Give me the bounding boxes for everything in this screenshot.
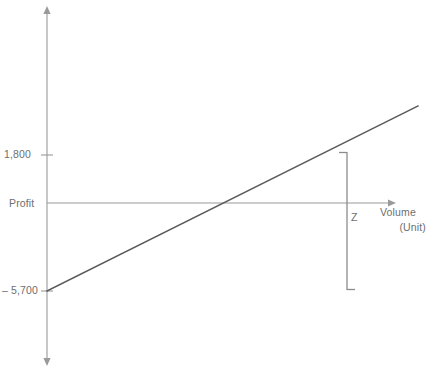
y-axis <box>43 6 50 366</box>
chart-canvas <box>0 0 428 376</box>
y-axis-label-profit: Profit <box>9 197 34 209</box>
profit-line-series <box>47 106 418 291</box>
y-axis-label-upper: 1,800 <box>4 148 31 160</box>
x-axis <box>47 200 396 207</box>
y-axis-arrow-down-icon <box>43 358 50 366</box>
profit-volume-chart: 1,800 Profit – 5,700 Z Volume (Unit) <box>0 0 428 376</box>
y-axis-arrow-up-icon <box>43 6 50 14</box>
x-axis-label: Volume <box>380 206 416 218</box>
profit-line <box>47 106 418 291</box>
y-axis-label-lower: – 5,700 <box>2 284 38 296</box>
x-axis-unit-label: (Unit) <box>380 221 426 233</box>
z-bracket-label: Z <box>351 211 358 223</box>
